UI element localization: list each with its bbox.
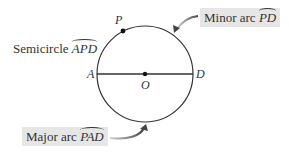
- label-O: O: [141, 79, 150, 91]
- minor-arc-name: PD: [259, 11, 276, 25]
- label-A: A: [87, 68, 94, 80]
- major-arc-text: Major arc: [26, 129, 80, 144]
- label-D: D: [196, 68, 205, 80]
- semicircle-text: Semicircle: [13, 41, 72, 56]
- major-arc-name: PAD: [80, 130, 104, 144]
- semicircle-label: Semicircle APD: [13, 42, 97, 55]
- major-arc-arrowhead: [140, 124, 148, 131]
- minor-arc-arrow: [177, 16, 198, 29]
- minor-arc-text: Minor arc: [204, 10, 259, 25]
- major-arc-arrow: [110, 128, 144, 139]
- label-P: P: [115, 14, 122, 26]
- semicircle-arc-name: APD: [72, 42, 97, 55]
- minor-arc-label: Minor arc PD: [200, 8, 280, 27]
- major-arc-label: Major arc PAD: [22, 127, 108, 146]
- point-P: [121, 29, 126, 34]
- point-O: [143, 72, 147, 76]
